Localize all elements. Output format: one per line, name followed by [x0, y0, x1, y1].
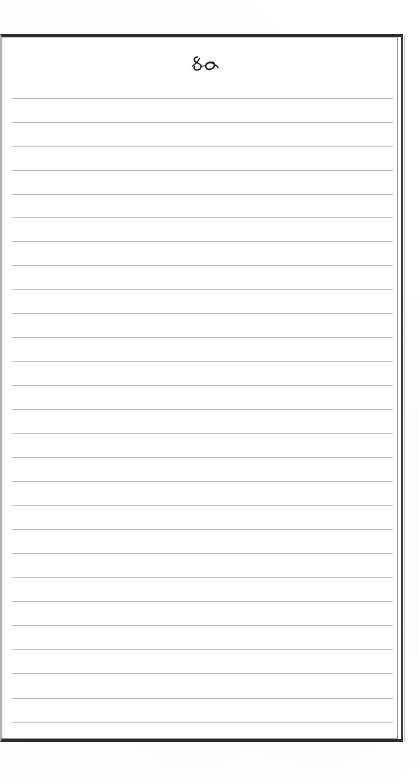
- ruled-line: [12, 433, 393, 434]
- ruled-line: [12, 385, 393, 386]
- ruled-line: [12, 122, 393, 123]
- ruled-line: [12, 409, 393, 410]
- ruled-line: [12, 337, 393, 338]
- ruled-line: [12, 673, 393, 674]
- ruled-line: [12, 194, 393, 195]
- scanned-page: [0, 0, 419, 780]
- ruled-line: [12, 529, 393, 530]
- ruled-line: [12, 481, 393, 482]
- ruled-line: [12, 361, 393, 362]
- ruled-line: [12, 98, 393, 99]
- ruled-line: [12, 649, 393, 650]
- ruled-line: [12, 457, 393, 458]
- page-border-outer-hairline: [404, 36, 405, 742]
- ruled-line: [12, 601, 393, 602]
- ruled-line: [12, 505, 393, 506]
- ruled-line: [12, 241, 393, 242]
- ruled-line: [12, 289, 393, 290]
- ruled-line: [12, 265, 393, 266]
- ruled-line: [12, 577, 393, 578]
- ruled-line: [12, 217, 393, 218]
- ruled-line: [12, 722, 393, 723]
- ruled-line: [12, 170, 393, 171]
- ruled-line: [12, 553, 393, 554]
- ruled-line: [12, 625, 393, 626]
- ruled-line: [12, 698, 393, 699]
- ruled-line: [12, 313, 393, 314]
- ruled-line: [12, 146, 393, 147]
- ruled-lines-area: [2, 37, 401, 739]
